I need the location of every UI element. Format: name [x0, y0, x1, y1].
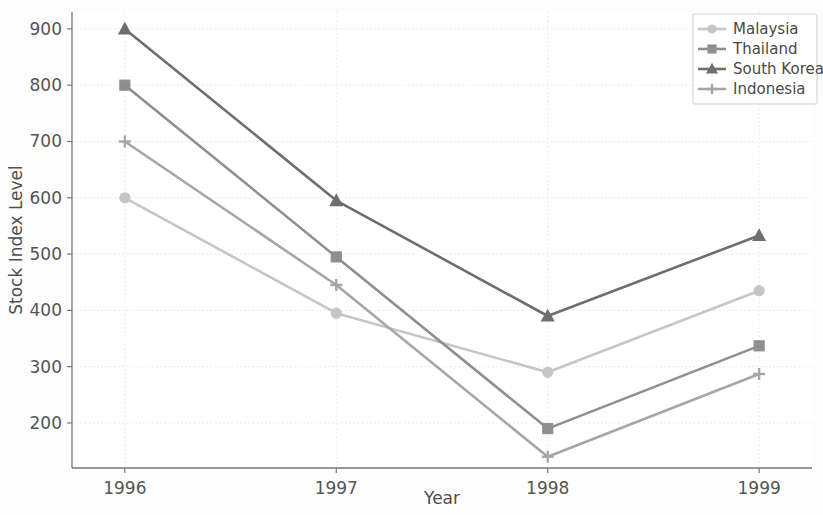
chart-figure: 200300400500600700800900 199619971998199…: [0, 0, 823, 515]
x-axis-title: Year: [423, 488, 460, 508]
data-point-marker: [543, 367, 553, 377]
y-tick-label: 300: [30, 357, 62, 377]
y-tick-label: 900: [30, 19, 62, 39]
x-tick-label: 1998: [526, 478, 569, 498]
y-tick-label: 700: [30, 131, 62, 151]
legend-label: Malaysia: [733, 20, 799, 38]
y-tick-label: 400: [30, 300, 62, 320]
chart-legend[interactable]: MalaysiaThailandSouth KoreaIndonesia: [693, 14, 823, 104]
y-tick-label: 200: [30, 413, 62, 433]
data-point-marker: [708, 25, 716, 33]
y-tick-label: 600: [30, 188, 62, 208]
data-point-marker: [331, 252, 341, 262]
legend-label: Thailand: [732, 40, 797, 58]
data-point-marker: [331, 308, 341, 318]
data-point-marker: [754, 286, 764, 296]
y-tick-label: 500: [30, 244, 62, 264]
data-point-marker: [120, 193, 130, 203]
legend-label: Indonesia: [733, 80, 806, 98]
x-tick-label: 1996: [103, 478, 146, 498]
y-tick-label: 800: [30, 75, 62, 95]
data-point-marker: [120, 80, 130, 90]
y-axis-title: Stock Index Level: [6, 165, 26, 315]
x-tick-label: 1997: [315, 478, 358, 498]
data-point-marker: [754, 341, 764, 351]
x-tick-label: 1999: [738, 478, 781, 498]
data-point-marker: [708, 45, 716, 53]
legend-label: South Korea: [733, 60, 823, 78]
line-chart-svg: 200300400500600700800900 199619971998199…: [0, 0, 823, 515]
data-point-marker: [543, 424, 553, 434]
